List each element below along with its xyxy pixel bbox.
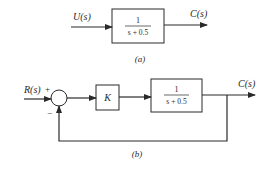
caption-a: (a) (135, 54, 146, 64)
gain-label: K (103, 92, 112, 103)
block-a-denominator: s + 0.5 (128, 28, 149, 37)
sum-minus-sign: − (47, 108, 52, 118)
block-a-numerator: 1 (136, 16, 140, 25)
block-diagram: U(s) 1 s + 0.5 C(s) (a) R(s) + − K 1 s +… (0, 0, 266, 171)
caption-b: (b) (132, 149, 143, 159)
sum-plus-sign: + (45, 84, 50, 94)
plant-block (151, 79, 202, 112)
input-label-r: R(s) (23, 84, 41, 96)
diagram-a: U(s) 1 s + 0.5 C(s) (a) (71, 8, 208, 64)
output-label-c-a: C(s) (190, 8, 208, 20)
plant-denominator: s + 0.5 (166, 97, 187, 106)
summing-junction (51, 90, 67, 106)
diagram-b: R(s) + − K 1 s + 0.5 C(s) (b) (23, 78, 256, 159)
plant-numerator: 1 (175, 85, 179, 94)
output-label-c-b: C(s) (238, 78, 256, 90)
input-label-u: U(s) (73, 11, 91, 23)
